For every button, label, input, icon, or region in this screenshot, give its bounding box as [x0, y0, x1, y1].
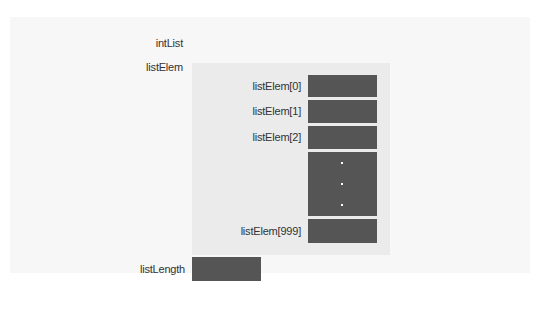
- element-label-999: listElem[999]: [241, 225, 301, 237]
- length-cell: [192, 257, 261, 281]
- element-label-1: listElem[1]: [252, 105, 301, 117]
- array-cell-2: [308, 126, 377, 149]
- ellipsis-dot-icon: [341, 204, 343, 206]
- array-cell-1: [308, 100, 377, 123]
- ellipsis-dot-icon: [341, 183, 343, 185]
- ellipsis-dot-icon: [341, 162, 343, 164]
- struct-name-label: intList: [156, 37, 183, 49]
- array-field-label: listElem: [146, 61, 183, 73]
- array-cell-999: [308, 219, 377, 243]
- array-cell-ellipsis: [308, 152, 377, 216]
- array-cell-0: [308, 75, 377, 97]
- length-field-label: listLength: [140, 263, 185, 275]
- element-label-2: listElem[2]: [252, 131, 301, 143]
- element-label-0: listElem[0]: [252, 80, 301, 92]
